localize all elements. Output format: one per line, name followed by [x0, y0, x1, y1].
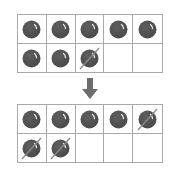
counter-icon: [109, 110, 128, 129]
frame-cell: [133, 15, 162, 44]
counter-icon: [109, 20, 128, 39]
frame-cell: [133, 134, 162, 163]
counter-icon: [22, 110, 41, 129]
crossed-counter-icon: [138, 110, 157, 129]
crossed-counter-icon: [80, 49, 99, 68]
counter-icon: [138, 20, 157, 39]
frame-cell: [18, 44, 47, 73]
counter-icon: [80, 110, 99, 129]
frame-cell: [76, 44, 105, 73]
arrow-down-icon: [82, 78, 98, 99]
counter-icon: [51, 110, 70, 129]
frame-cell: [18, 15, 47, 44]
frame-cell: [76, 105, 105, 134]
ten-frame-after: [17, 104, 163, 163]
frame-cell: [47, 44, 76, 73]
crossed-counter-icon: [51, 139, 70, 158]
frame-cell: [47, 134, 76, 163]
frame-cell: [104, 44, 133, 73]
frame-cell: [76, 134, 105, 163]
counter-icon: [80, 20, 99, 39]
counter-icon: [51, 20, 70, 39]
frame-cell: [18, 134, 47, 163]
frame-cell: [18, 105, 47, 134]
counter-icon: [22, 20, 41, 39]
frame-cell: [47, 105, 76, 134]
frame-cell: [133, 105, 162, 134]
ten-frame-before: [17, 14, 163, 73]
counter-icon: [22, 49, 41, 68]
crossed-counter-icon: [22, 139, 41, 158]
frame-cell: [104, 134, 133, 163]
frame-cell: [76, 15, 105, 44]
counter-icon: [51, 49, 70, 68]
frame-cell: [104, 15, 133, 44]
frame-cell: [133, 44, 162, 73]
frame-cell: [104, 105, 133, 134]
frame-cell: [47, 15, 76, 44]
